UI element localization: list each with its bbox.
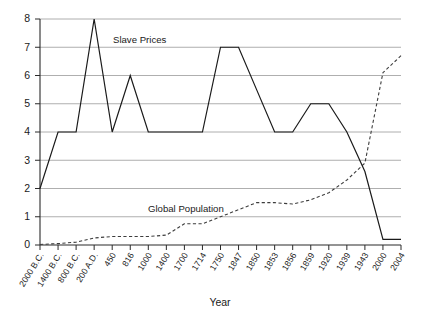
x-tick-label: 450 <box>102 251 118 269</box>
annotations-group: Slave Prices Global Population <box>113 34 224 214</box>
y-tick-label: 5 <box>24 97 30 109</box>
line-chart-svg: 012345678 2000 B.C.1400 B.C.800 B.C.200 … <box>0 0 425 321</box>
y-tick-label: 1 <box>24 210 30 222</box>
x-tick-label: 1714 <box>190 251 209 273</box>
x-tick-label: 816 <box>120 251 136 269</box>
x-axis-title: Year <box>209 296 231 308</box>
x-tick-marks <box>40 245 401 250</box>
x-tick-label: 1853 <box>262 251 281 273</box>
x-axis-group: 2000 B.C.1400 B.C.800 B.C.200 A.D.450816… <box>17 245 407 288</box>
y-tick-label: 6 <box>24 69 30 81</box>
y-tick-label: 4 <box>24 125 30 137</box>
x-tick-label: 1847 <box>226 251 245 273</box>
series-label-global-population: Global Population <box>148 203 224 214</box>
x-tick-label: 2004 <box>388 251 407 273</box>
y-tick-label: 8 <box>24 12 30 24</box>
x-tick-labels: 2000 B.C.1400 B.C.800 B.C.200 A.D.450816… <box>17 251 407 289</box>
x-tick-label: 1920 <box>316 251 335 273</box>
series-line-global-population <box>40 56 401 245</box>
x-tick-label: 1859 <box>298 251 317 273</box>
x-tick-label: 2000 <box>370 251 389 273</box>
y-tick-label: 2 <box>24 182 30 194</box>
x-tick-label: 1750 <box>208 251 227 273</box>
x-tick-label: 1700 <box>171 251 190 273</box>
y-tick-label: 0 <box>24 238 30 250</box>
x-tick-label: 1850 <box>244 251 263 273</box>
y-tick-label: 7 <box>24 41 30 53</box>
y-tick-labels: 012345678 <box>24 12 30 250</box>
series-label-slave-prices: Slave Prices <box>113 34 167 45</box>
x-tick-label: 1856 <box>280 251 299 273</box>
x-tick-label: 1943 <box>352 251 371 273</box>
y-tick-label: 3 <box>24 154 30 166</box>
x-tick-label: 1000 <box>135 251 154 273</box>
chart-container: 012345678 2000 B.C.1400 B.C.800 B.C.200 … <box>0 0 425 321</box>
x-tick-label: 1939 <box>334 251 353 273</box>
y-axis-group: 012345678 <box>24 12 40 250</box>
x-tick-label: 1400 <box>153 251 172 273</box>
y-tick-marks <box>35 19 40 245</box>
